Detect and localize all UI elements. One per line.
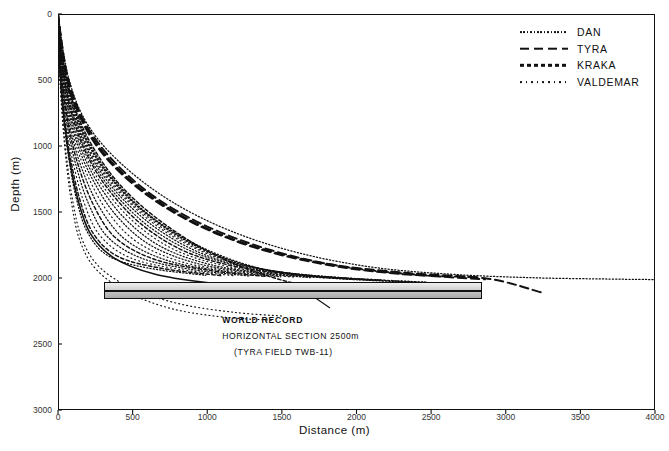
x-tick-label: 2000	[347, 412, 366, 422]
legend: DAN TYRA KRAKA VALDEMAR	[520, 24, 640, 90]
x-tick-label: 0	[56, 412, 61, 422]
y-tick-label: 3000	[18, 405, 52, 415]
legend-label: DAN	[577, 26, 601, 38]
x-tick-label: 2500	[422, 412, 441, 422]
x-tick-label: 3500	[571, 412, 590, 422]
x-tick-label: 3000	[496, 412, 515, 422]
y-tick-label: 500	[18, 75, 52, 85]
x-tick-label: 1500	[272, 412, 291, 422]
legend-item-tyra: TYRA	[520, 41, 640, 58]
world-record-bar	[104, 282, 482, 299]
x-tick-label: 4000	[646, 412, 665, 422]
legend-swatch-fine-dotted-icon	[520, 77, 568, 87]
clipped-title	[268, 0, 388, 5]
legend-item-dan: DAN	[520, 24, 640, 41]
annotation-line-2: (TYRA FIELD TWB-11)	[234, 347, 332, 357]
bar-band-upper	[105, 283, 481, 290]
bar-band-lower	[105, 292, 481, 298]
y-tick-label: 2500	[18, 339, 52, 349]
legend-swatch-dotted-icon	[520, 27, 568, 37]
x-tick-label: 500	[126, 412, 140, 422]
legend-label: KRAKA	[577, 59, 616, 71]
y-axis-label: Depth (m)	[9, 139, 21, 229]
well-trajectory-chart: WORLD RECORDHORIZONTAL SECTION 2500m(TYR…	[0, 0, 669, 451]
y-tick-label: 2000	[18, 273, 52, 283]
y-tick-label: 1500	[18, 207, 52, 217]
y-tick-label: 1000	[18, 141, 52, 151]
annotation-line-0: WORLD RECORD	[222, 315, 303, 325]
y-tick-label: 0	[18, 9, 52, 19]
x-tick-label: 1000	[198, 412, 217, 422]
legend-label: TYRA	[577, 43, 608, 55]
legend-swatch-long-dashed-icon	[520, 44, 568, 54]
legend-item-kraka: KRAKA	[520, 57, 640, 74]
annotation-line-1: HORIZONTAL SECTION 2500m	[222, 331, 359, 341]
x-axis-label: Distance (m)	[0, 424, 669, 436]
legend-swatch-dashed-icon	[520, 60, 568, 70]
legend-item-valdemar: VALDEMAR	[520, 74, 640, 91]
legend-label: VALDEMAR	[577, 76, 640, 88]
